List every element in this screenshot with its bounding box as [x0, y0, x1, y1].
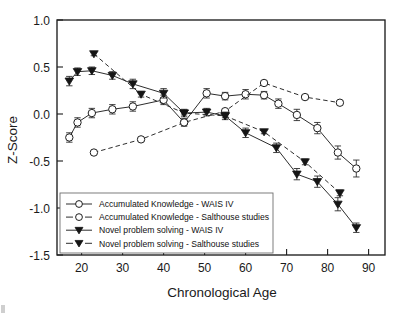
y-tick-label: 0.5: [33, 61, 50, 75]
x-tick-label: 70: [280, 261, 294, 275]
y-tick-label: 0.0: [33, 108, 50, 122]
x-tick-label: 30: [116, 261, 130, 275]
z-score-by-age-figure: Z-Score Chronological Age 1.00.50.0-0.5-…: [0, 0, 399, 317]
chart-canvas: Z-Score Chronological Age 1.00.50.0-0.5-…: [0, 0, 399, 317]
legend-item-label: Novel problem solving - WAIS IV: [99, 225, 224, 235]
y-tick-label: 1.0: [33, 14, 50, 28]
x-tick-label: 40: [157, 261, 171, 275]
x-tick-label: 60: [239, 261, 253, 275]
chart-legend: Accumulated Knowledge - WAIS IVAccumulat…: [60, 193, 273, 253]
y-tick-label: -1.0: [29, 202, 50, 216]
y-axis-title: Z-Score: [5, 116, 20, 164]
x-tick-label: 20: [75, 261, 89, 275]
legend-item-label: Accumulated Knowledge - WAIS IV: [99, 199, 234, 209]
y-tick-label: -1.5: [29, 249, 50, 263]
legend-item-label: Accumulated Knowledge - Salthouse studie…: [99, 212, 269, 222]
legend-item-label: Novel problem solving - Salthouse studie…: [99, 239, 259, 249]
y-tick-label: -0.5: [29, 155, 50, 169]
x-tick-label: 90: [362, 261, 376, 275]
scan-artifact: [1, 305, 5, 313]
x-tick-label: 50: [198, 261, 212, 275]
x-axis-title: Chronological Age: [167, 285, 277, 300]
x-tick-label: 80: [321, 261, 335, 275]
